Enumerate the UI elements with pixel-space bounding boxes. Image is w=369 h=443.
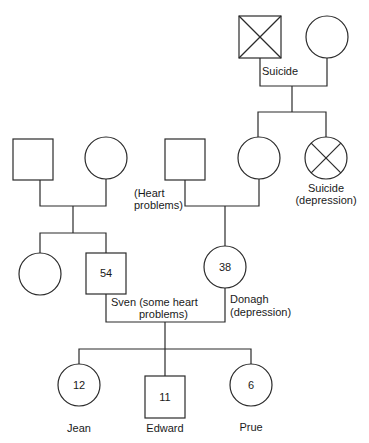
female-symbol bbox=[85, 137, 127, 179]
sven-label-line2: problems) bbox=[139, 308, 188, 320]
male-symbol bbox=[13, 139, 53, 180]
female-symbol bbox=[306, 16, 348, 58]
great-grandfather-label: Suicide bbox=[262, 65, 298, 77]
female-symbol bbox=[238, 137, 280, 179]
male-symbol bbox=[165, 139, 205, 180]
donagh-age: 38 bbox=[219, 261, 231, 273]
paternal-grandfather bbox=[13, 139, 53, 180]
sven-label-line1: Sven (some heart bbox=[111, 296, 198, 308]
maternal-grandfather bbox=[165, 139, 205, 180]
prue-age: 6 bbox=[248, 379, 254, 391]
female-symbol bbox=[19, 253, 61, 295]
maternal-great-grandfather bbox=[239, 16, 281, 58]
donagh-label-line1: Donagh bbox=[230, 293, 269, 305]
paternal-grandmother bbox=[85, 137, 127, 179]
jean-age: 12 bbox=[73, 379, 85, 391]
sibling-line bbox=[40, 233, 106, 253]
jean: 12 bbox=[58, 364, 100, 406]
maternal-great-aunt bbox=[305, 137, 347, 179]
edward-label: Edward bbox=[146, 422, 183, 434]
maternal-grandmother bbox=[238, 137, 280, 179]
grandfather-label-line2: problems) bbox=[134, 199, 183, 211]
edward-age: 11 bbox=[159, 391, 170, 403]
sven-age: 54 bbox=[100, 267, 112, 279]
prue: 6 bbox=[230, 364, 272, 406]
grandfather-label-line1: (Heart bbox=[134, 187, 165, 199]
marriage-line bbox=[185, 179, 259, 206]
sven-sister bbox=[19, 253, 61, 295]
donagh: 38 bbox=[204, 246, 246, 288]
donagh-label-line2: (depression) bbox=[230, 306, 291, 318]
marriage-line bbox=[40, 179, 106, 206]
jean-label: Jean bbox=[67, 422, 91, 434]
sibling-line bbox=[258, 112, 326, 137]
great-aunt-label-line1: Suicide bbox=[308, 182, 344, 194]
maternal-great-grandmother bbox=[306, 16, 348, 58]
prue-label: Prue bbox=[239, 421, 262, 433]
edward: 11 bbox=[145, 376, 185, 418]
great-aunt-label-line2: (depression) bbox=[295, 194, 356, 206]
genogram-canvas: Suicide (Heart problems) Suicide (depres… bbox=[0, 0, 369, 443]
sven: 54 bbox=[86, 253, 126, 294]
